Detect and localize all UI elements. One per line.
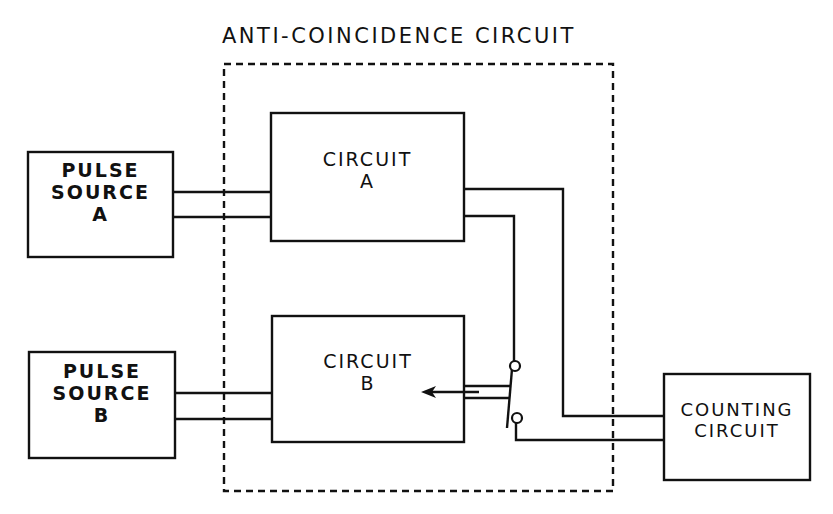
switch-contact-top [510,361,520,371]
anti-coincidence-enclosure [224,64,613,491]
wire-switch-to-counter [516,422,664,440]
circuit-b-line2: B [272,373,464,395]
circuit-a-line1: CIRCUIT [271,149,464,171]
circuit-a-line2: A [271,171,464,193]
pulse-source-b-line3: B [29,405,175,427]
circuit-b-label: CIRCUIT B [272,351,464,395]
diagram-title: ANTI-COINCIDENCE CIRCUIT [222,24,612,48]
wire-a-to-counter [464,189,664,416]
pulse-source-a-line3: A [28,204,173,226]
pulse-source-b-label: PULSE SOURCE B [29,361,175,427]
circuit-a-label: CIRCUIT A [271,149,464,193]
counting-circuit-line1: COUNTING [664,400,810,421]
pulse-source-a-label: PULSE SOURCE A [28,160,173,226]
pulse-source-b-line1: PULSE [29,361,175,383]
switch-contact-bottom [512,413,522,423]
counting-circuit-label: COUNTING CIRCUIT [664,400,810,441]
pulse-source-a-line2: SOURCE [28,182,173,204]
circuit-b-line1: CIRCUIT [272,351,464,373]
pulse-source-a-line1: PULSE [28,160,173,182]
wire-a-to-switch [464,216,514,361]
pulse-source-b-line2: SOURCE [29,383,175,405]
counting-circuit-line2: CIRCUIT [664,421,810,442]
